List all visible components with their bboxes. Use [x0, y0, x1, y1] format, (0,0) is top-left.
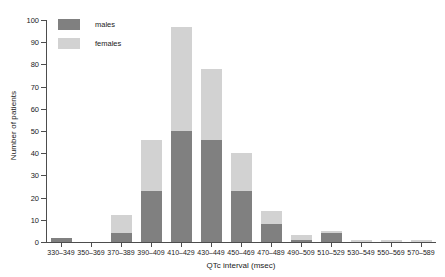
- y-axis-tick-label: 80: [17, 60, 39, 69]
- x-axis-tick: [361, 243, 362, 247]
- x-axis-tick-label: 390–409: [137, 249, 164, 256]
- x-axis-tick-label: 570–589: [407, 249, 434, 256]
- bar-segment-females[interactable]: [261, 211, 282, 224]
- y-axis-tick-label: 30: [17, 171, 39, 180]
- bar-segment-females[interactable]: [201, 69, 222, 140]
- x-axis-tick: [211, 243, 212, 247]
- chart-figure: Number of patients 010203040506070809010…: [0, 0, 445, 277]
- bar-segment-males[interactable]: [141, 191, 162, 242]
- bar-group[interactable]: [291, 20, 312, 242]
- y-axis-tick-label: 0: [17, 238, 39, 247]
- bar-group[interactable]: [261, 20, 282, 242]
- y-axis-tick-label: 60: [17, 104, 39, 113]
- x-axis-tick-label: 430–449: [197, 249, 224, 256]
- x-axis-tick-label: 530–549: [347, 249, 374, 256]
- x-axis-tick-label: 490–509: [287, 249, 314, 256]
- x-axis-tick: [301, 243, 302, 247]
- x-axis-tick-label: 410–429: [167, 249, 194, 256]
- bar-group[interactable]: [231, 20, 252, 242]
- x-axis-tick-label: 550–569: [377, 249, 404, 256]
- y-axis-tick-label: 70: [17, 82, 39, 91]
- bar-segment-males[interactable]: [111, 233, 132, 242]
- bar-group[interactable]: [381, 20, 402, 242]
- chart-legend: malesfemales: [58, 16, 121, 54]
- x-axis-tick-label: 450–469: [227, 249, 254, 256]
- legend-label-males: males: [95, 20, 115, 29]
- x-axis-tick: [241, 243, 242, 247]
- legend-label-females: females: [95, 39, 121, 48]
- x-axis-tick-label: 350–369: [77, 249, 104, 256]
- x-axis-tick-label: 470–489: [257, 249, 284, 256]
- x-axis-tick: [421, 243, 422, 247]
- bar-segment-males[interactable]: [321, 233, 342, 242]
- x-axis-tick: [331, 243, 332, 247]
- y-axis-tick-label: 20: [17, 193, 39, 202]
- y-axis-tick-label: 100: [17, 16, 39, 25]
- bar-group[interactable]: [351, 20, 372, 242]
- bar-group[interactable]: [411, 20, 432, 242]
- bar-segment-males[interactable]: [261, 224, 282, 242]
- y-axis-tick-label: 10: [17, 215, 39, 224]
- bar-segment-females[interactable]: [111, 215, 132, 233]
- bar-segment-females[interactable]: [171, 27, 192, 131]
- y-axis-tick-label: 90: [17, 38, 39, 47]
- bar-segment-males[interactable]: [231, 191, 252, 242]
- bar-segment-females[interactable]: [231, 153, 252, 191]
- bar-segment-males[interactable]: [201, 140, 222, 242]
- x-axis-tick: [121, 243, 122, 247]
- y-axis-tick-label: 40: [17, 149, 39, 158]
- bar-group[interactable]: [171, 20, 192, 242]
- legend-swatch-females: [58, 38, 80, 49]
- legend-item-males[interactable]: males: [58, 16, 121, 32]
- x-axis-tick-label: 510–529: [317, 249, 344, 256]
- bar-group[interactable]: [141, 20, 162, 242]
- x-axis-tick: [271, 243, 272, 247]
- x-axis-tick: [91, 243, 92, 247]
- x-axis-title: QTc interval (msec): [46, 261, 436, 270]
- x-axis-tick-label: 330–349: [47, 249, 74, 256]
- legend-swatch-males: [58, 19, 80, 30]
- x-axis-tick: [181, 243, 182, 247]
- bar-segment-females[interactable]: [141, 140, 162, 191]
- x-axis-tick: [61, 243, 62, 247]
- legend-item-females[interactable]: females: [58, 35, 121, 51]
- x-axis-tick-label: 370–389: [107, 249, 134, 256]
- bar-segment-males[interactable]: [171, 131, 192, 242]
- x-axis-tick: [151, 243, 152, 247]
- y-axis-tick-label: 50: [17, 127, 39, 136]
- x-axis-tick: [391, 243, 392, 247]
- bar-segment-females[interactable]: [291, 235, 312, 239]
- bar-group[interactable]: [201, 20, 222, 242]
- bar-group[interactable]: [321, 20, 342, 242]
- y-tick-label-layer: 0102030405060708090100: [12, 0, 39, 277]
- bar-segment-females[interactable]: [321, 231, 342, 233]
